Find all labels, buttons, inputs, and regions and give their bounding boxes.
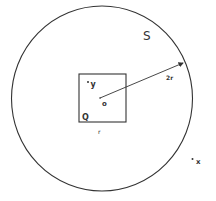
side-label-r: r — [98, 128, 101, 135]
center-label-o: o — [102, 100, 107, 108]
radius-label-2r: 2r — [166, 74, 173, 81]
point-x-dot — [192, 158, 194, 160]
diagram-canvas: S y o Q r 2r x — [0, 0, 216, 201]
circle-s — [12, 6, 193, 191]
region-label-s: S — [143, 29, 151, 43]
point-y-dot — [87, 81, 89, 83]
point-label-y: y — [91, 80, 97, 89]
point-label-x: x — [196, 158, 201, 166]
center-point — [99, 97, 101, 99]
square-label-q: Q — [82, 113, 89, 122]
